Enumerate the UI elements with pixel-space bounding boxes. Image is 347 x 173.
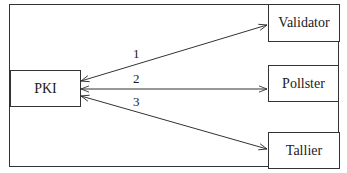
edge-pki-validator	[81, 25, 267, 81]
edge-label-3: 3	[133, 94, 140, 110]
edge-pki-tallier	[81, 96, 267, 149]
node-pollster-label: Pollster	[282, 76, 325, 92]
edge-label-2: 2	[133, 71, 140, 87]
node-tallier: Tallier	[268, 132, 340, 169]
node-pki-label: PKI	[34, 81, 57, 97]
node-validator: Validator	[268, 4, 340, 42]
node-pollster: Pollster	[268, 65, 339, 102]
node-pki: PKI	[10, 70, 81, 107]
node-validator-label: Validator	[278, 15, 329, 31]
edge-label-1: 1	[133, 46, 140, 62]
node-tallier-label: Tallier	[286, 143, 322, 159]
